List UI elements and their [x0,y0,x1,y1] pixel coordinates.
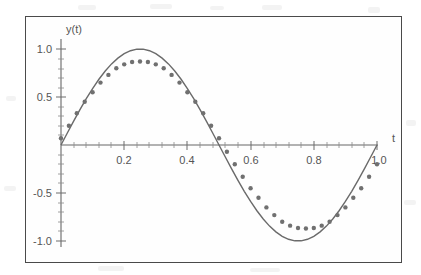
data-point [209,124,213,128]
data-point [114,66,118,70]
sine-comparison-plot: 1.0 0.5 -0.5 -1.0 0.2 0.4 0.6 0.8 1.0 y(… [26,17,403,264]
data-point [67,124,71,128]
data-point [154,62,158,66]
figure-frame: 1.0 0.5 -0.5 -1.0 0.2 0.4 0.6 0.8 1.0 y(… [25,16,402,263]
data-point [256,196,260,200]
data-point [304,226,308,230]
data-point [327,220,331,224]
y-axis-label: y(t) [66,23,82,35]
data-point [272,213,276,217]
data-point [351,196,355,200]
data-point [248,186,252,190]
x-tick-label-0.4: 0.4 [179,154,194,166]
data-point [343,205,347,209]
data-point [75,111,79,115]
data-point [98,80,102,84]
data-point [90,90,94,94]
data-point [264,205,268,209]
data-point [193,100,197,104]
data-point [367,174,371,178]
data-point [225,150,229,154]
data-point [130,60,134,64]
data-point [241,174,245,178]
data-point [280,220,284,224]
x-tick-label-0.6: 0.6 [243,154,258,166]
y-tick-label-1.0: 1.0 [37,43,52,55]
data-point [217,136,221,140]
data-point [59,136,63,140]
data-point [296,226,300,230]
data-point [138,59,142,63]
data-point [320,223,324,227]
data-point [122,62,126,66]
data-point [288,223,292,227]
data-point [106,73,110,77]
data-point [177,80,181,84]
data-point [83,100,87,104]
y-tick-label-neg1.0: -1.0 [33,235,52,247]
y-tick-label-neg0.5: -0.5 [33,187,52,199]
data-point [312,226,316,230]
x-tick-label-0.8: 0.8 [306,154,321,166]
data-point [169,73,173,77]
data-point [146,60,150,64]
data-point [233,162,237,166]
data-point [335,213,339,217]
data-point [185,90,189,94]
data-point [201,111,205,115]
data-point [359,186,363,190]
x-axis-label: t [392,132,395,144]
x-tick-label-0.2: 0.2 [116,154,131,166]
y-tick-label-0.5: 0.5 [37,91,52,103]
data-point [162,66,166,70]
data-point [375,162,379,166]
